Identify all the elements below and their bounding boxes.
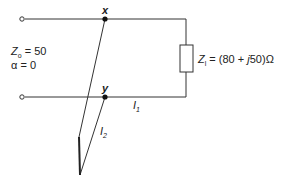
i2-sub: 2 bbox=[103, 132, 107, 139]
terminal-top bbox=[20, 17, 24, 21]
load-value-end: 50)Ω bbox=[250, 53, 274, 65]
terminal-bottom bbox=[20, 95, 24, 99]
stub-short-circuit bbox=[79, 137, 80, 175]
stub-conductor-a bbox=[79, 19, 105, 137]
current-i2-label: I2 bbox=[100, 125, 107, 142]
node-y-label: y bbox=[102, 82, 108, 94]
i1-sub: 1 bbox=[136, 106, 140, 113]
junction-x bbox=[102, 16, 107, 21]
current-i1-label: I1 bbox=[133, 99, 140, 116]
load-impedance-box bbox=[180, 45, 193, 72]
circuit-wires bbox=[0, 0, 291, 187]
load-symbol: Z bbox=[198, 53, 205, 65]
z0-symbol: Z bbox=[11, 45, 18, 57]
alpha-label: α = 0 bbox=[11, 59, 36, 71]
junction-y bbox=[102, 94, 107, 99]
node-x-label: x bbox=[102, 4, 108, 16]
z0-value: = 50 bbox=[22, 45, 47, 57]
load-value: = (80 + bbox=[206, 53, 247, 65]
circuit-diagram: x y Zo = 50 α = 0 Zl = (80 + j50)Ω I1 I2 bbox=[0, 0, 291, 187]
load-label: Zl = (80 + j50)Ω bbox=[198, 53, 274, 70]
